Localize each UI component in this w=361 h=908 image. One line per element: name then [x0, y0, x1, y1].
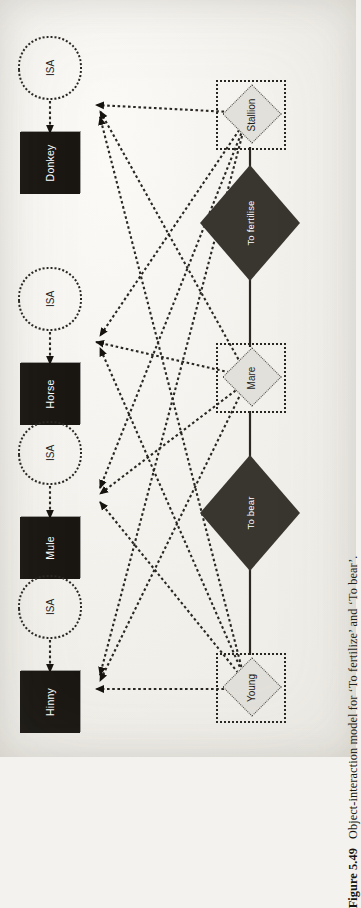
diagram-stage: Hinny Mule Horse Donkey ISA ISA ISA IS [4, 47, 304, 747]
object-interaction-diagram: Hinny Mule Horse Donkey ISA ISA ISA IS [4, 47, 304, 747]
isa-node-hinny-label: ISA [45, 598, 56, 614]
figure-caption-text: Object-interaction model for ‘To fertili… [346, 555, 360, 839]
operation-to-fertilise[interactable]: To fertilise [200, 165, 300, 281]
object-mare[interactable]: Mare [216, 343, 286, 413]
figure-number: Figure 5.49 [346, 848, 360, 908]
entity-donkey-label: Donkey [44, 144, 56, 181]
entity-horse[interactable]: Horse [20, 363, 80, 425]
entity-donkey[interactable]: Donkey [20, 132, 80, 194]
isa-node-donkey-label: ISA [45, 59, 56, 75]
isa-node-donkey[interactable]: ISA [18, 36, 82, 100]
entity-hinny[interactable]: Hinny [20, 671, 80, 733]
object-young[interactable]: Young [216, 653, 286, 723]
entity-mule-label: Mule [44, 536, 56, 560]
operation-to-bear-label: To bear [200, 455, 300, 571]
isa-node-horse[interactable]: ISA [18, 267, 82, 331]
object-stallion-label: Stallion [218, 82, 284, 148]
object-stallion[interactable]: Stallion [216, 80, 286, 150]
isa-node-horse-label: ISA [45, 290, 56, 306]
isa-node-hinny[interactable]: ISA [18, 575, 82, 639]
operation-to-fertilise-label: To fertilise [200, 165, 300, 281]
entity-mule[interactable]: Mule [20, 517, 80, 579]
object-mare-label: Mare [218, 345, 284, 411]
isa-node-mule[interactable]: ISA [18, 421, 82, 485]
isa-node-mule-label: ISA [45, 444, 56, 460]
entity-horse-label: Horse [44, 379, 56, 408]
operation-to-bear[interactable]: To bear [200, 455, 300, 571]
figure-caption: Figure 5.49Object-interaction model for … [346, 555, 361, 908]
entity-hinny-label: Hinny [44, 688, 56, 716]
object-young-label: Young [218, 655, 284, 721]
